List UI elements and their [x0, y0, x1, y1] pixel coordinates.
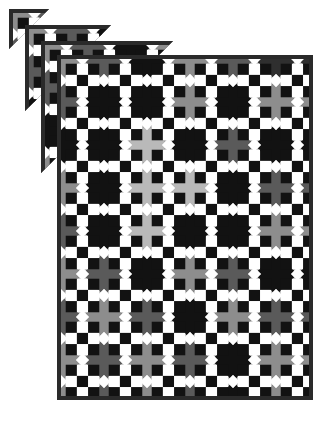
quilt-surface [57, 55, 313, 400]
quilt-layer-4 [57, 55, 313, 400]
quilt-artwork-stage [0, 0, 328, 423]
